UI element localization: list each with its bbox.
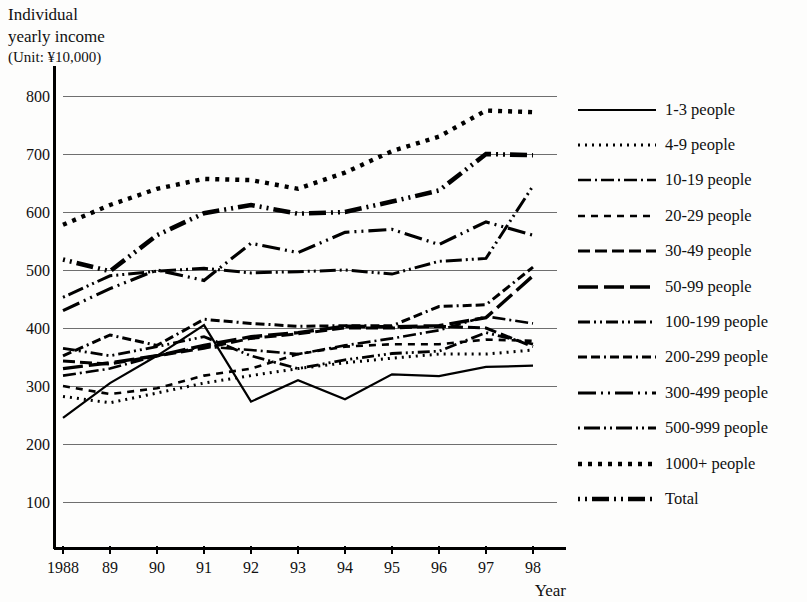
legend-item[interactable]: 200-299 people	[578, 340, 806, 375]
legend-item[interactable]: 10-19 people	[578, 163, 806, 198]
x-tick-label: 95	[384, 559, 400, 576]
legend-swatch-icon	[578, 420, 656, 436]
x-tick-label: 90	[149, 559, 165, 576]
chart-legend: 1-3 people4-9 people10-19 people20-29 pe…	[578, 92, 806, 517]
x-axis-ticks: 198889909192939495969798	[47, 546, 541, 576]
y-tick-label: 400	[26, 320, 50, 337]
legend-item[interactable]: 1-3 people	[578, 92, 806, 127]
legend-label: 4-9 people	[665, 135, 735, 155]
legend-swatch-icon	[578, 349, 656, 365]
chart-figure: Individual yearly income (Unit: ¥10,000)…	[0, 0, 807, 602]
y-tick-label: 500	[26, 262, 50, 279]
legend-label: 50-99 people	[665, 277, 752, 297]
x-tick-label: 96	[431, 559, 447, 576]
legend-swatch-icon	[578, 314, 656, 330]
legend-label: 10-19 people	[665, 170, 752, 190]
x-tick-label: 1988	[47, 559, 79, 576]
legend-label: 1000+ people	[665, 454, 755, 474]
legend-item[interactable]: 20-29 people	[578, 198, 806, 233]
data-series-1-3-people	[63, 325, 533, 418]
x-tick-label: 97	[478, 559, 494, 576]
legend-swatch-icon	[578, 243, 656, 259]
legend-item[interactable]: 1000+ people	[578, 446, 806, 481]
y-tick-label: 300	[26, 378, 50, 395]
legend-label: 200-299 people	[665, 347, 768, 367]
x-tick-label: 91	[196, 559, 212, 576]
data-series-group	[63, 111, 533, 418]
legend-label: 500-999 people	[665, 418, 768, 438]
y-tick-label: 200	[26, 436, 50, 453]
legend-item[interactable]: Total	[578, 481, 806, 516]
x-tick-label: 89	[102, 559, 118, 576]
legend-swatch-icon	[578, 208, 656, 224]
data-series-300-499-people	[63, 222, 533, 311]
x-axis-label: Year	[535, 581, 567, 600]
data-series-1000-people	[63, 111, 533, 225]
y-tick-label: 700	[26, 146, 50, 163]
legend-swatch-icon	[578, 385, 656, 401]
legend-item[interactable]: 500-999 people	[578, 411, 806, 446]
legend-item[interactable]: 100-199 people	[578, 304, 806, 339]
legend-label: 300-499 people	[665, 383, 768, 403]
legend-swatch-icon	[578, 137, 656, 153]
y-tick-label: 100	[26, 494, 50, 511]
legend-item[interactable]: 4-9 people	[578, 127, 806, 162]
x-tick-label: 98	[525, 559, 541, 576]
legend-item[interactable]: 30-49 people	[578, 234, 806, 269]
legend-label: Total	[665, 489, 699, 509]
legend-label: 1-3 people	[665, 100, 735, 120]
x-tick-label: 94	[337, 559, 353, 576]
legend-label: 30-49 people	[665, 241, 752, 261]
legend-label: 20-29 people	[665, 206, 752, 226]
legend-swatch-icon	[578, 279, 656, 295]
legend-swatch-icon	[578, 172, 656, 188]
x-tick-label: 93	[290, 559, 306, 576]
y-axis-ticks: 100200300400500600700800	[26, 88, 50, 511]
legend-swatch-icon	[578, 491, 656, 507]
y-tick-label: 800	[26, 88, 50, 105]
legend-swatch-icon	[578, 102, 656, 118]
legend-label: 100-199 people	[665, 312, 768, 332]
data-series-total	[63, 154, 533, 271]
y-tick-label: 600	[26, 204, 50, 221]
data-series-10-19-people	[63, 316, 533, 375]
legend-item[interactable]: 300-499 people	[578, 375, 806, 410]
x-tick-label: 92	[243, 559, 259, 576]
legend-item[interactable]: 50-99 people	[578, 269, 806, 304]
legend-swatch-icon	[578, 456, 656, 472]
